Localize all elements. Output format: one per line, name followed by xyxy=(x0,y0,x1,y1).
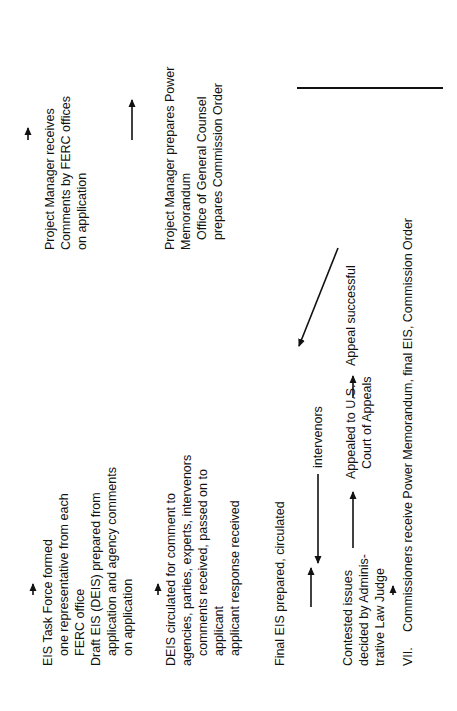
deis-line: comments received, passed on to xyxy=(195,455,211,666)
pm-receives-line: on application xyxy=(74,96,90,250)
deis-line: DEIS circulated for comment to xyxy=(163,455,179,666)
task-force-line: Draft EIS (DEIS) prepared from xyxy=(88,467,104,666)
deis-line: applicant xyxy=(211,455,227,666)
task-force-line: EIS Task Force formed xyxy=(40,467,56,666)
task-force-line: on application xyxy=(120,467,136,666)
block-deis-circulated: DEIS circulated for comment to agencies,… xyxy=(163,455,243,666)
contested-line: trative Law Judge xyxy=(372,554,388,666)
intervenors-label: intervenors xyxy=(310,406,326,468)
appeal-successful-label: Appeal successful xyxy=(343,265,359,366)
step-vii-text: Commissioners receive Power Memorandum, … xyxy=(401,218,415,632)
pm-prepares-line: Office of General Counsel xyxy=(194,67,210,250)
contested-line: decided by Adminis- xyxy=(356,554,372,666)
block-appealed: Appealed to U.S. Court of Appeals xyxy=(343,377,375,479)
task-force-line: application and agency comments xyxy=(104,467,120,666)
pm-receives-line: Project Manager receives xyxy=(42,96,58,250)
deis-line: applicant response received xyxy=(227,455,243,666)
horizontal-rule xyxy=(297,87,443,89)
deis-line: agencies, parties, experts, intervenors xyxy=(179,455,195,666)
pm-prepares-line: Memorandum xyxy=(178,67,194,250)
appealed-line: Appealed to U.S. xyxy=(343,377,359,479)
block-task-force: EIS Task Force formed one representative… xyxy=(40,467,136,666)
rotated-flowchart-page: EIS Task Force formed one representative… xyxy=(0,0,457,711)
pm-receives-line: Comments by FERC offices xyxy=(58,96,74,250)
block-contested: Contested issues decided by Adminis- tra… xyxy=(340,554,388,666)
step-vii-numeral: VII. xyxy=(400,632,416,666)
block-pm-receives: Project Manager receives Comments by FER… xyxy=(42,96,90,250)
pm-prepares-line: Project Manager prepares Power xyxy=(162,67,178,250)
step-vii: VII.Commissioners receive Power Memorand… xyxy=(400,218,416,666)
final-eis-line: Final EIS prepared, circulated xyxy=(272,501,288,666)
appealed-line: Court of Appeals xyxy=(359,377,375,479)
task-force-line: one representative from each xyxy=(56,467,72,666)
pm-prepares-line: prepares Commission Order xyxy=(210,67,226,250)
block-final-eis: Final EIS prepared, circulated xyxy=(272,501,288,666)
task-force-line: FERC office xyxy=(72,467,88,666)
contested-line: Contested issues xyxy=(340,554,356,666)
block-pm-prepares: Project Manager prepares Power Memorandu… xyxy=(162,67,226,250)
